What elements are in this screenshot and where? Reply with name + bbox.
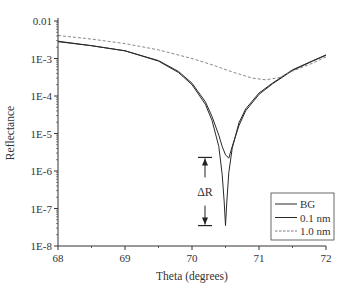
arrow-up-icon bbox=[202, 158, 208, 165]
y-tick-label: 1E-7 bbox=[31, 203, 53, 215]
x-tick-label: 68 bbox=[53, 252, 65, 264]
y-tick-label: 1E-4 bbox=[31, 90, 53, 102]
x-tick-label: 70 bbox=[187, 252, 199, 264]
x-axis-title: Theta (degrees) bbox=[156, 270, 228, 283]
y-tick-label: 1E-6 bbox=[31, 165, 53, 177]
y-tick-label: 1E-3 bbox=[31, 53, 53, 65]
delta-r-annotation: ΔR bbox=[197, 157, 213, 225]
legend-label: 0.1 nm bbox=[300, 212, 331, 224]
x-tick-label: 71 bbox=[254, 252, 265, 264]
reflectance-chart: 0.011E-31E-41E-51E-61E-71E-86869707172 Δ… bbox=[0, 0, 348, 292]
x-tick-label: 72 bbox=[321, 252, 332, 264]
series-line-1-0-nm bbox=[58, 36, 326, 80]
arrow-down-icon bbox=[202, 218, 208, 225]
x-tick-label: 69 bbox=[120, 252, 132, 264]
legend-label: BG bbox=[300, 198, 315, 210]
y-tick-label: 1E-8 bbox=[31, 240, 53, 252]
legend: BG0.1 nm1.0 nm bbox=[271, 193, 334, 240]
y-axis-title: Reflectance bbox=[4, 106, 16, 160]
y-tick-label: 0.01 bbox=[33, 15, 52, 27]
y-tick-label: 1E-5 bbox=[31, 128, 53, 140]
delta-r-label: ΔR bbox=[197, 185, 213, 199]
legend-label: 1.0 nm bbox=[300, 225, 331, 237]
